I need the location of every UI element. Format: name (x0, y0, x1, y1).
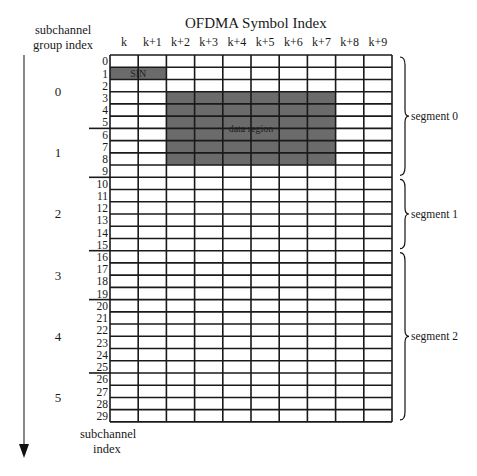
column-header: k+8 (340, 35, 359, 49)
row-number: 28 (97, 398, 109, 410)
row-number: 24 (97, 349, 109, 361)
row-number: 18 (97, 275, 109, 287)
column-header: k+9 (369, 35, 388, 49)
row-number: 15 (97, 239, 109, 251)
row-number: 8 (102, 153, 108, 165)
row-number: 26 (97, 373, 109, 385)
row-number: 13 (97, 214, 109, 226)
row-number: 4 (102, 104, 108, 116)
row-number: 20 (97, 300, 109, 312)
column-header: k+2 (171, 35, 190, 49)
row-number: 1 (102, 68, 108, 80)
row-number: 29 (97, 410, 109, 422)
group-index-label: 3 (55, 268, 62, 283)
column-header: k+6 (284, 35, 303, 49)
group-index-label: 4 (55, 329, 62, 344)
ofdma-diagram: SINdata regionkk+1k+2k+3k+4k+5k+6k+7k+8k… (0, 0, 477, 476)
segment-label: segment 1 (411, 208, 458, 221)
row-number: 10 (97, 178, 109, 190)
column-header: k+4 (228, 35, 247, 49)
diagram-title: OFDMA Symbol Index (185, 16, 327, 31)
row-number: 9 (102, 165, 108, 177)
row-number: 6 (102, 129, 108, 141)
column-header: k+1 (143, 35, 162, 49)
row-number: 22 (97, 324, 109, 336)
column-header: k (121, 35, 127, 49)
row-number: 3 (102, 92, 108, 104)
segment-brace (400, 253, 409, 420)
sin-label: SIN (130, 68, 146, 79)
group-index-label: 1 (55, 145, 62, 160)
data-region-label: data region (229, 123, 274, 134)
row-number: 12 (97, 202, 109, 214)
row-number: 2 (102, 80, 108, 92)
segment-label: segment 2 (411, 330, 458, 343)
subchannel-index-label-line2: index (93, 443, 121, 456)
row-number: 14 (97, 227, 109, 239)
segment-brace (400, 57, 409, 175)
group-index-label-line1: subchannel (35, 24, 91, 37)
segment-brace (400, 179, 409, 248)
row-number: 0 (102, 55, 108, 67)
group-index-label: 5 (55, 390, 62, 405)
row-number: 23 (97, 337, 109, 349)
row-number: 11 (97, 190, 108, 202)
ofdma-grid-canvas: SINdata regionkk+1k+2k+3k+4k+5k+6k+7k+8k… (0, 0, 477, 476)
row-number: 21 (97, 312, 109, 324)
row-number: 25 (97, 361, 109, 373)
row-number: 17 (97, 263, 109, 275)
subchannel-index-label-line1: subchannel (80, 428, 136, 441)
column-header: k+3 (199, 35, 218, 49)
group-index-label-line2: group index (33, 39, 93, 52)
row-number: 27 (97, 386, 109, 398)
group-index-label: 0 (55, 84, 62, 99)
column-header: k+7 (312, 35, 331, 49)
row-number: 19 (97, 288, 109, 300)
arrow-down-icon (19, 444, 29, 458)
row-number: 5 (102, 116, 108, 128)
row-number: 16 (97, 251, 109, 263)
column-header: k+5 (256, 35, 275, 49)
group-index-label: 2 (55, 206, 62, 221)
row-number: 7 (102, 141, 108, 153)
segment-label: segment 0 (411, 110, 458, 123)
